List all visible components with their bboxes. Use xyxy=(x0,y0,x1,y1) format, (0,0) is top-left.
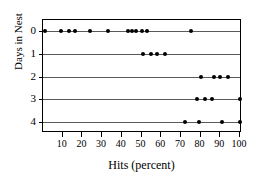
data-point xyxy=(106,29,110,33)
y-axis-tick-label: 2 xyxy=(31,70,37,81)
x-axis-tick-labels: 102030405060708090100 xyxy=(42,138,241,151)
data-point xyxy=(203,97,207,101)
x-axis-title: Hits (percent) xyxy=(42,158,241,172)
x-axis-tick-label: 20 xyxy=(76,138,86,150)
category-baseline xyxy=(43,77,240,78)
data-point xyxy=(163,52,167,56)
x-axis-tick xyxy=(160,132,161,137)
data-point xyxy=(59,29,63,33)
data-point xyxy=(210,97,214,101)
data-point xyxy=(134,29,138,33)
x-axis-tick-label: 50 xyxy=(136,138,146,150)
data-point xyxy=(149,52,153,56)
x-axis-tick-label: 90 xyxy=(214,138,224,150)
data-point xyxy=(155,52,159,56)
data-point xyxy=(197,120,201,124)
data-point xyxy=(88,29,92,33)
data-point xyxy=(238,97,242,101)
y-axis-tick-label: 4 xyxy=(31,115,37,126)
data-point xyxy=(212,75,216,79)
x-axis-tick-label: 100 xyxy=(232,138,247,150)
x-axis-tick-label: 80 xyxy=(195,138,205,150)
data-point xyxy=(226,75,230,79)
y-axis-tick-labels: 01234 xyxy=(0,19,42,132)
data-point xyxy=(183,120,187,124)
data-point xyxy=(67,29,71,33)
category-baseline xyxy=(43,122,240,123)
dot-plot-figure: Days in Nest 01234 102030405060708090100… xyxy=(0,0,261,185)
x-axis-tick xyxy=(101,132,102,137)
x-axis-tick xyxy=(180,132,181,137)
data-point xyxy=(220,120,224,124)
data-point xyxy=(73,29,77,33)
x-axis-tick-label: 60 xyxy=(155,138,165,150)
data-point xyxy=(218,75,222,79)
y-axis-tick xyxy=(39,77,43,78)
data-point xyxy=(43,29,47,33)
x-axis-tick xyxy=(200,132,201,137)
plot-area xyxy=(42,19,241,132)
y-axis-tick xyxy=(39,31,43,32)
data-point xyxy=(141,52,145,56)
data-point xyxy=(189,29,193,33)
x-axis-tick xyxy=(62,132,63,137)
x-axis-tick xyxy=(219,132,220,137)
y-axis-tick-label: 0 xyxy=(31,25,37,36)
data-point xyxy=(238,120,242,124)
x-axis-tick-label: 70 xyxy=(175,138,185,150)
x-axis-tick xyxy=(121,132,122,137)
y-axis-tick xyxy=(39,122,43,123)
data-point xyxy=(145,29,149,33)
data-point xyxy=(199,75,203,79)
data-point xyxy=(195,97,199,101)
y-axis-tick-label: 1 xyxy=(31,47,37,58)
y-axis-tick xyxy=(39,54,43,55)
y-axis-tick xyxy=(39,99,43,100)
x-axis-tick xyxy=(81,132,82,137)
x-axis-tick xyxy=(141,132,142,137)
x-axis-tick-label: 30 xyxy=(96,138,106,150)
x-axis-tick xyxy=(239,132,240,137)
data-point xyxy=(140,29,144,33)
x-axis-tick-label: 40 xyxy=(116,138,126,150)
y-axis-tick-label: 3 xyxy=(31,93,37,104)
x-axis-tick-label: 10 xyxy=(57,138,67,150)
